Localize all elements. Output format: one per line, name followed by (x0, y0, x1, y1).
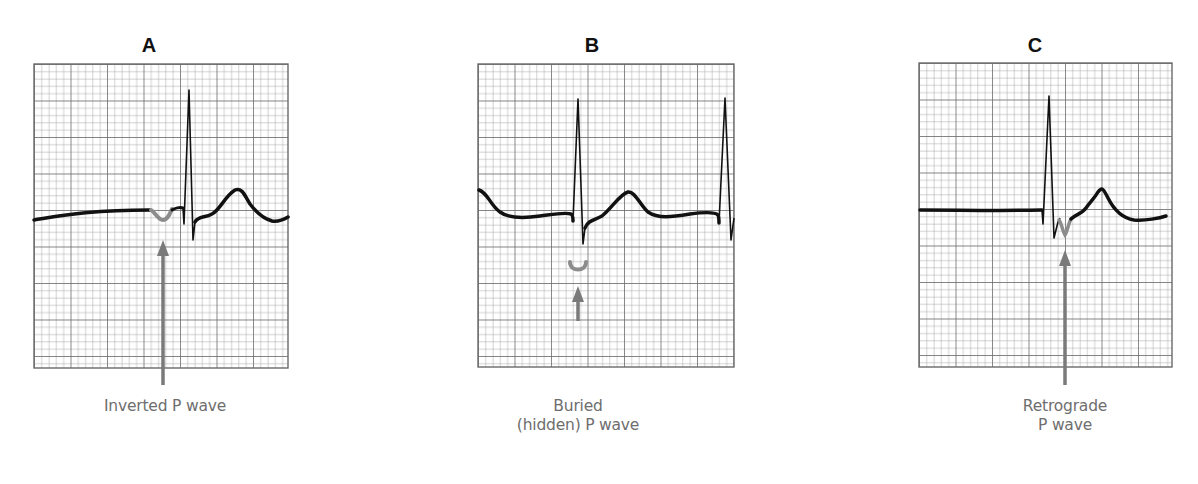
panel-b (478, 64, 734, 367)
caption-b-line-2: (hidden) P wave (493, 416, 663, 435)
ecg-grid-c (919, 63, 1172, 367)
panel-a (34, 64, 288, 385)
caption-b-line-1: Buried (493, 397, 663, 416)
caption-a-line-1: Inverted P wave (80, 397, 250, 416)
caption-c-line-2: P wave (980, 416, 1150, 435)
caption-c-line-1: Retrograde (980, 397, 1150, 416)
caption-b: Buried (hidden) P wave (493, 397, 663, 435)
caption-a: Inverted P wave (80, 397, 250, 416)
panel-c (919, 63, 1172, 385)
caption-c: Retrograde P wave (980, 397, 1150, 435)
ecg-grid-b (478, 64, 734, 367)
